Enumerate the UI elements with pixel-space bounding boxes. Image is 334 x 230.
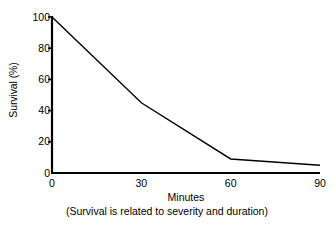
x-axis-subtitle: (Survival is related to severity and dur… [0, 205, 334, 217]
survival-data-line [52, 17, 320, 165]
survival-line-chart: Survival (%) 0204060801000306090 Minutes… [0, 0, 334, 230]
axis-lines [51, 16, 320, 173]
x-axis-title: Minutes [52, 191, 320, 203]
